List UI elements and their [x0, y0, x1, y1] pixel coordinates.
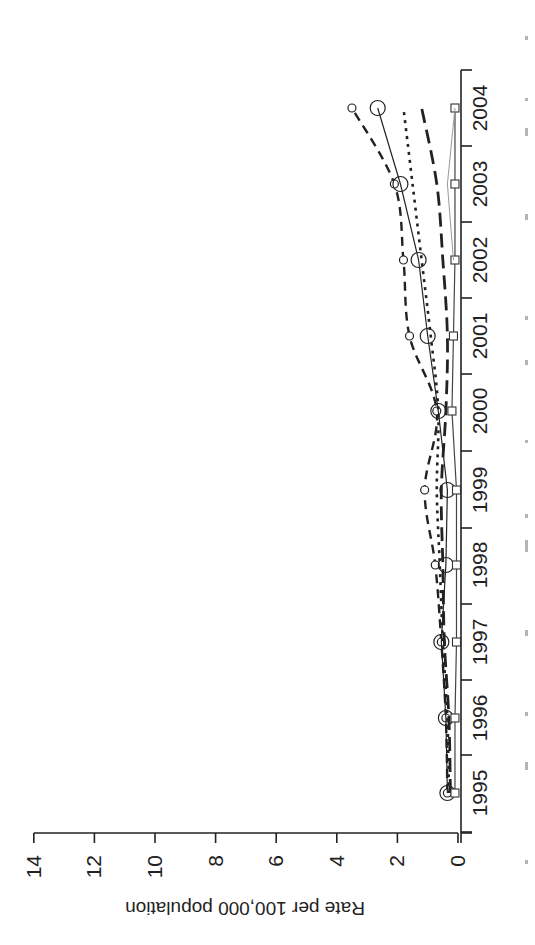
square-marker [452, 486, 460, 494]
series-line [378, 108, 448, 793]
year-tick-label: 1999 [468, 467, 491, 514]
value-axis: 02468101214 [22, 833, 469, 878]
series-line [352, 108, 447, 793]
year-axis: 1995199619971998199920002001200220032004 [461, 70, 491, 843]
value-tick-label: 2 [385, 855, 408, 867]
series-solid-thin [448, 104, 461, 797]
year-tick-label: 2003 [468, 161, 491, 208]
square-marker [451, 714, 459, 722]
value-tick-label: 14 [22, 855, 45, 879]
series-layer [348, 101, 461, 801]
year-tick-label: 2004 [468, 84, 491, 131]
square-marker [451, 180, 459, 188]
year-tick-label: 2000 [468, 388, 491, 435]
value-tick-label: 4 [325, 855, 348, 867]
square-marker [451, 256, 459, 264]
year-tick-label: 1997 [468, 619, 491, 666]
value-tick-label: 8 [204, 855, 227, 867]
square-marker [451, 789, 459, 797]
year-tick-label: 1995 [468, 770, 491, 817]
small-circle-marker [399, 256, 407, 264]
square-marker [452, 638, 460, 646]
series-line [422, 108, 451, 793]
small-circle-marker [348, 104, 356, 112]
series-dashed [348, 104, 451, 797]
year-tick-label: 2002 [468, 237, 491, 284]
value-tick-label: 6 [264, 855, 287, 867]
square-marker [448, 407, 456, 415]
series-longdash [422, 108, 451, 793]
small-circle-marker [406, 332, 414, 340]
value-tick-label: 12 [82, 855, 105, 878]
value-tick-label: 0 [446, 855, 469, 867]
small-circle-marker [390, 180, 398, 188]
year-tick-label: 2001 [468, 313, 491, 360]
clipped-caption-fragment [521, 0, 535, 945]
year-tick-label: 1998 [468, 542, 491, 589]
square-marker [449, 332, 457, 340]
square-marker [452, 561, 460, 569]
small-circle-marker [421, 486, 429, 494]
value-tick-label: 10 [143, 855, 166, 878]
series-line [452, 108, 457, 793]
year-tick-label: 1996 [468, 695, 491, 742]
rotated-line-chart: 02468101214 1995199619971998199920002001… [0, 0, 535, 945]
value-axis-title: Rate per 100,000 population [125, 898, 365, 919]
small-circle-marker [433, 407, 441, 415]
